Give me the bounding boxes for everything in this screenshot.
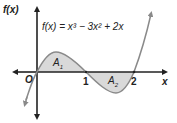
region-a2-subscript: 2 <box>115 82 118 88</box>
graph-canvas <box>0 0 177 123</box>
region-a1-letter: A <box>53 57 60 68</box>
tick-label-2: 2 <box>131 77 137 87</box>
equation-label: f(x) = x³ − 3x² + 2x <box>42 22 123 32</box>
region-label-a2: A2 <box>108 76 118 88</box>
tick-label-1: 1 <box>83 77 89 87</box>
y-axis-label: f(x) <box>3 5 19 15</box>
root-point-2 <box>133 71 136 74</box>
x-axis-label: x <box>162 77 168 87</box>
region-a1-subscript: 1 <box>60 64 63 70</box>
origin-label: O <box>25 75 33 85</box>
region-a2-letter: A <box>108 75 115 86</box>
region-label-a1: A1 <box>53 58 63 70</box>
curve-left-arrow <box>25 97 27 104</box>
root-point-1 <box>85 71 88 74</box>
